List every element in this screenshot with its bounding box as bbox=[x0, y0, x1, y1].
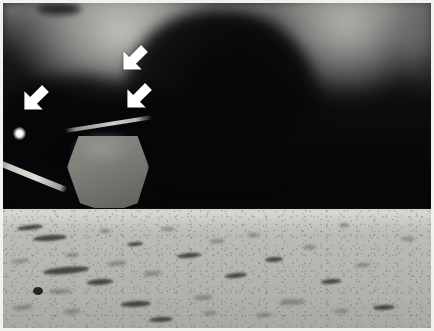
regolith-rock bbox=[209, 239, 225, 243]
annotation-arrow-middle-icon[interactable] bbox=[124, 77, 158, 111]
sky-region bbox=[3, 3, 431, 212]
top-edge-smudge bbox=[37, 3, 81, 15]
photo-image-plate bbox=[3, 3, 431, 328]
regolith-rock bbox=[401, 237, 415, 241]
point-light-icon bbox=[13, 127, 26, 140]
regolith-rock bbox=[161, 227, 175, 231]
regolith-rock bbox=[99, 229, 111, 233]
regolith-surface bbox=[3, 209, 431, 328]
regolith-rock bbox=[339, 223, 349, 227]
regolith-rock bbox=[303, 245, 317, 249]
regolith-rock bbox=[33, 287, 43, 295]
photograph-frame bbox=[0, 0, 434, 331]
annotation-arrow-top-icon[interactable] bbox=[120, 39, 154, 73]
regolith-rock bbox=[65, 253, 79, 257]
annotation-arrow-left-icon[interactable] bbox=[21, 79, 55, 113]
regolith-rock bbox=[203, 311, 217, 315]
regolith-rock bbox=[247, 233, 259, 237]
glow-patch-edge-icon bbox=[395, 3, 431, 93]
footpad-highlight bbox=[73, 135, 139, 169]
